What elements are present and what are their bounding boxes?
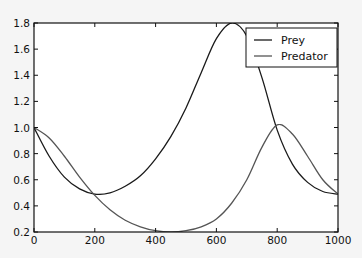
y-tick-label: 1.0	[13, 122, 30, 134]
x-tick-label: 600	[206, 234, 226, 246]
x-tick-label: 0	[31, 234, 38, 246]
y-tick-label: 0.8	[13, 148, 30, 160]
legend: Prey Predator	[246, 28, 337, 67]
y-tick-label: 1.2	[13, 95, 30, 107]
y-tick-label: 1.8	[13, 17, 30, 29]
x-tick-label: 400	[146, 234, 166, 246]
y-tick-label: 0.6	[13, 174, 30, 186]
y-tick-label: 1.4	[13, 69, 30, 81]
x-tick-label: 800	[267, 234, 287, 246]
chart: 020040060080010000.20.40.60.81.01.21.41.…	[0, 0, 362, 258]
y-tick-label: 1.6	[13, 43, 30, 55]
legend-label-predator: Predator	[281, 50, 328, 63]
legend-label-prey: Prey	[281, 34, 305, 47]
y-tick-label: 0.2	[13, 226, 30, 238]
x-tick-label: 1000	[325, 234, 352, 246]
x-tick-label: 200	[85, 234, 105, 246]
y-tick-label: 0.4	[13, 200, 30, 212]
